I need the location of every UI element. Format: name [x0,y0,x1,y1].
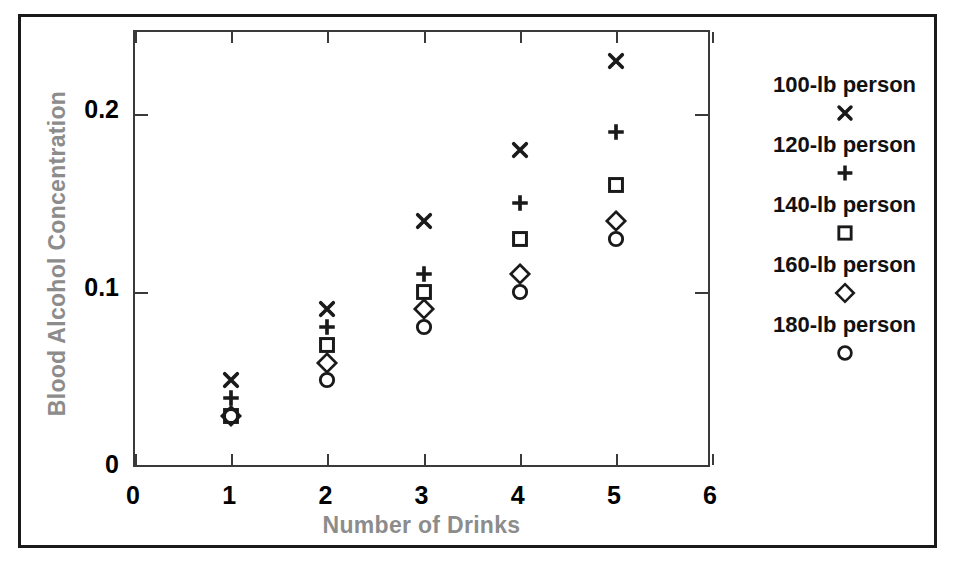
legend-entry: 180-lb person [752,312,937,368]
x-axis-tick-top [327,32,329,43]
data-point-square [604,174,627,197]
data-point-cross-x [509,139,530,160]
x-axis-tick [327,454,329,465]
x-axis-tick-label: 3 [402,481,442,510]
legend-label: 140-lb person [752,192,937,218]
data-point-cross-x [413,210,434,231]
data-point-circle [220,404,243,427]
x-axis-title: Number of Drinks [133,512,710,539]
x-axis-tick-top [520,32,522,43]
x-axis-tick [520,454,522,465]
x-axis-tick [231,454,233,465]
legend-label: 120-lb person [752,132,937,158]
data-point-circle [604,227,627,250]
x-axis-tick-label: 4 [498,481,538,510]
legend-label: 180-lb person [752,312,937,338]
x-axis-tick-label: 5 [594,481,634,510]
legend-label: 100-lb person [752,72,937,98]
legend-marker-diamond-icon [752,278,937,308]
y-axis-tick-label: 0.2 [29,95,119,124]
legend-marker-square-icon [752,218,937,248]
x-axis-tick-label: 1 [209,481,249,510]
plot-area [133,30,710,467]
x-axis-tick [424,454,426,465]
y-axis-tick [135,292,148,294]
legend-marker-cross-x-icon [752,98,937,128]
data-point-cross-x [605,51,626,72]
plot-inner-canvas [135,32,708,465]
y-axis-tick-right [695,114,708,116]
legend-entry: 100-lb person [752,72,937,128]
x-axis-tick-label: 2 [305,481,345,510]
legend-entry: 160-lb person [752,252,937,308]
x-axis-tick-label: 6 [690,481,730,510]
data-point-circle [412,316,435,339]
legend-label: 160-lb person [752,252,937,278]
y-axis-tick [135,114,148,116]
x-axis-tick-top [135,32,137,43]
chart-figure: 012345600.10.2 Number of Drinks Blood Al… [0,0,955,563]
x-axis-tick [135,454,137,465]
data-point-circle [316,369,339,392]
data-point-plus [509,193,530,214]
y-axis-tick-right [695,292,708,294]
x-axis-tick-top [424,32,426,43]
data-point-square [508,227,531,250]
legend-marker-plus-icon [752,158,937,188]
legend-marker-circle-icon [752,338,937,368]
x-axis-tick-top [712,32,714,43]
y-axis-title: Blood Alcohol Concentration [44,34,71,474]
x-axis-tick-top [616,32,618,43]
y-axis-tick-label: 0.1 [29,273,119,302]
data-point-plus [605,122,626,143]
data-point-circle [508,280,531,303]
y-axis-tick-label: 0 [29,450,119,479]
x-axis-tick-top [231,32,233,43]
x-axis-tick [616,454,618,465]
chart-legend: 100-lb person 120-lb person 140-lb perso… [752,72,937,372]
legend-entry: 120-lb person [752,132,937,188]
x-axis-tick [712,454,714,465]
legend-entry: 140-lb person [752,192,937,248]
x-axis-tick-label: 0 [113,481,153,510]
